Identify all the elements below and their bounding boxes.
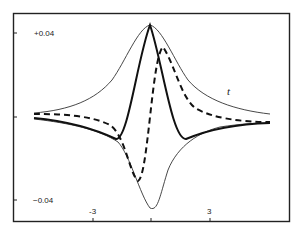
curve-label-t: t: [227, 85, 231, 97]
x-tick-label-neg3: -3: [89, 207, 97, 216]
series-thin-lower: [34, 119, 270, 209]
series-dashed: [34, 47, 270, 181]
plot-frame: [14, 14, 290, 222]
series-thick-solid: [34, 25, 270, 139]
y-tick-label-neg: −0.04: [33, 196, 54, 205]
y-tick-label-pos: +0.04: [34, 29, 55, 38]
chart: +0.04 −0.04 -3 3 t: [0, 0, 301, 235]
x-tick-label-3: 3: [207, 207, 212, 216]
